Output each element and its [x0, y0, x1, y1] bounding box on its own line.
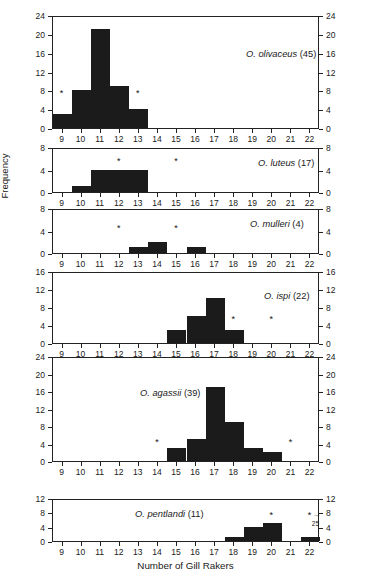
- y-tick-mark: [48, 499, 52, 500]
- species-name: O. agassii: [140, 388, 181, 398]
- asterisk-annotation: *: [267, 315, 276, 324]
- x-tick-label: 21: [280, 468, 300, 477]
- y-tick-label: 8: [326, 423, 353, 432]
- x-tick-label: 15: [166, 468, 186, 477]
- x-tick-mark: [157, 129, 158, 133]
- y-tick-label: 12: [326, 69, 353, 78]
- y-tick-label: 20: [326, 31, 353, 40]
- y-tick-label: 24: [18, 12, 45, 21]
- y-tick-mark: [319, 232, 323, 233]
- plot-area: [52, 357, 319, 462]
- x-tick-label: 9: [52, 199, 72, 208]
- asterisk-annotation: *: [114, 157, 123, 166]
- x-tick-label: 16: [185, 199, 205, 208]
- x-tick-label: 21: [280, 135, 300, 144]
- y-tick-mark: [48, 272, 52, 273]
- y-tick-mark: [48, 357, 52, 358]
- x-tick-mark: [157, 542, 158, 546]
- x-tick-label: 22: [299, 135, 319, 144]
- x-tick-mark: [176, 462, 177, 466]
- y-tick-mark: [319, 290, 323, 291]
- y-tick-mark: [48, 232, 52, 233]
- y-tick-mark: [48, 209, 52, 210]
- x-tick-label: 13: [128, 468, 148, 477]
- x-tick-mark: [290, 193, 291, 197]
- y-tick-mark: [48, 513, 52, 514]
- sample-size-label: (45): [297, 49, 316, 59]
- x-tick-mark: [309, 542, 310, 546]
- x-tick-mark: [62, 344, 63, 348]
- x-tick-mark: [176, 254, 177, 258]
- y-tick-mark: [319, 344, 323, 345]
- x-tick-mark: [100, 344, 101, 348]
- x-tick-mark: [214, 542, 215, 546]
- histogram-bar: [187, 316, 206, 343]
- y-tick-mark: [48, 16, 52, 17]
- x-tick-label: 10: [71, 260, 91, 269]
- y-tick-label: 0: [18, 340, 45, 349]
- x-tick-label: 11: [90, 468, 110, 477]
- histogram-bar: [225, 330, 244, 344]
- x-tick-mark: [176, 129, 177, 133]
- x-tick-mark: [81, 254, 82, 258]
- x-tick-mark: [271, 254, 272, 258]
- species-name: O. mulleri: [250, 219, 290, 229]
- histogram-bar: [110, 86, 129, 128]
- x-tick-mark: [290, 129, 291, 133]
- x-tick-mark: [271, 542, 272, 546]
- y-tick-label: 12: [326, 286, 353, 295]
- asterisk-annotation: *: [267, 511, 276, 520]
- x-tick-label: 17: [204, 468, 224, 477]
- x-tick-label: 9: [52, 260, 72, 269]
- x-tick-mark: [252, 462, 253, 466]
- species-name: O. ispi: [264, 291, 290, 301]
- x-tick-mark: [157, 193, 158, 197]
- x-tick-mark: [62, 193, 63, 197]
- plot-area: [52, 499, 319, 542]
- y-tick-mark: [319, 209, 323, 210]
- x-tick-mark: [214, 462, 215, 466]
- y-tick-mark: [319, 392, 323, 393]
- offscale-value-label: 25: [305, 520, 325, 527]
- x-tick-label: 12: [109, 468, 129, 477]
- x-tick-mark: [81, 462, 82, 466]
- y-tick-mark: [48, 308, 52, 309]
- y-tick-mark: [319, 254, 323, 255]
- x-tick-label: 10: [71, 548, 91, 557]
- sample-size-label: (39): [181, 388, 200, 398]
- x-tick-label: 16: [185, 548, 205, 557]
- y-tick-mark: [48, 110, 52, 111]
- x-tick-mark: [62, 542, 63, 546]
- x-tick-mark: [214, 129, 215, 133]
- x-tick-mark: [290, 254, 291, 258]
- histogram-bar: [129, 170, 148, 193]
- gill-raker-histogram-figure: Frequency Number of Gill Rakers 00448812…: [0, 0, 371, 581]
- y-tick-mark: [48, 148, 52, 149]
- y-tick-label: 24: [18, 353, 45, 362]
- species-label: O. agassii (39): [140, 388, 200, 398]
- x-tick-mark: [100, 193, 101, 197]
- x-tick-mark: [252, 129, 253, 133]
- y-tick-mark: [319, 445, 323, 446]
- histogram-bar: [244, 448, 263, 461]
- y-tick-label: 0: [326, 538, 353, 547]
- x-tick-label: 19: [242, 135, 262, 144]
- y-tick-mark: [319, 110, 323, 111]
- y-tick-label: 8: [18, 509, 45, 518]
- x-tick-mark: [119, 129, 120, 133]
- x-tick-mark: [233, 462, 234, 466]
- y-tick-label: 0: [326, 458, 353, 467]
- x-tick-mark: [233, 193, 234, 197]
- x-tick-label: 17: [204, 260, 224, 269]
- y-tick-mark: [48, 171, 52, 172]
- x-tick-mark: [119, 254, 120, 258]
- x-tick-label: 17: [204, 548, 224, 557]
- plot-area: [52, 209, 319, 254]
- y-tick-label: 4: [326, 228, 353, 237]
- y-tick-label: 8: [326, 205, 353, 214]
- x-tick-label: 19: [242, 260, 262, 269]
- species-label: O. mulleri (4): [250, 219, 304, 229]
- y-tick-label: 4: [18, 441, 45, 450]
- x-tick-mark: [119, 193, 120, 197]
- plot-area: [52, 16, 319, 129]
